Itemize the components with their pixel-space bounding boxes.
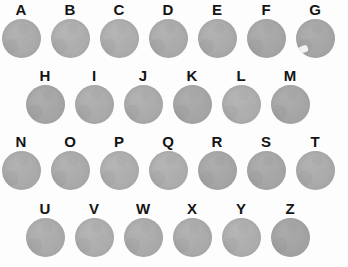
specimen-disc-u — [26, 218, 65, 257]
specimen-row-4: UVWXYZ — [25, 201, 319, 261]
specimen-label-j: J — [139, 68, 147, 85]
specimen-disc-r — [198, 151, 237, 190]
specimen-label-a: A — [16, 2, 27, 19]
specimen-n: N — [1, 134, 41, 194]
specimen-disc-o — [51, 151, 90, 190]
specimen-b: B — [50, 2, 90, 62]
specimen-disc-x — [173, 218, 212, 257]
specimen-label-b: B — [65, 2, 76, 19]
specimen-label-g: G — [309, 2, 321, 19]
specimen-a: A — [1, 2, 41, 62]
specimen-disc-t — [296, 151, 335, 190]
specimen-label-n: N — [16, 134, 27, 151]
specimen-disc-q — [149, 151, 188, 190]
specimen-j: J — [123, 68, 163, 128]
specimen-label-c: C — [114, 2, 125, 19]
specimen-disc-l — [222, 85, 261, 124]
specimen-o: O — [50, 134, 90, 194]
specimen-disc-e — [198, 19, 237, 58]
specimen-label-z: Z — [285, 201, 294, 218]
specimen-disc-d — [149, 19, 188, 58]
specimen-g: G — [295, 2, 335, 62]
specimen-disc-k — [173, 85, 212, 124]
specimen-m: M — [270, 68, 310, 128]
specimen-x: X — [172, 201, 212, 261]
specimen-label-h: H — [40, 68, 51, 85]
specimen-label-u: U — [40, 201, 51, 218]
specimen-label-r: R — [212, 134, 223, 151]
specimen-label-m: M — [284, 68, 297, 85]
specimen-q: Q — [148, 134, 188, 194]
specimen-label-x: X — [187, 201, 197, 218]
specimen-k: K — [172, 68, 212, 128]
specimen-disc-y — [222, 218, 261, 257]
specimen-disc-s — [247, 151, 286, 190]
specimen-label-k: K — [187, 68, 198, 85]
specimen-disc-m — [271, 85, 310, 124]
specimen-label-t: T — [310, 134, 319, 151]
specimen-disc-f — [247, 19, 286, 58]
specimen-z: Z — [270, 201, 310, 261]
specimen-u: U — [25, 201, 65, 261]
specimen-row-1: ABCDEFG — [1, 2, 344, 62]
specimen-disc-g — [296, 19, 335, 58]
specimen-d: D — [148, 2, 188, 62]
specimen-e: E — [197, 2, 237, 62]
specimen-h: H — [25, 68, 65, 128]
specimen-disc-c — [100, 19, 139, 58]
specimen-disc-j — [124, 85, 163, 124]
specimen-c: C — [99, 2, 139, 62]
specimen-t: T — [295, 134, 335, 194]
specimen-label-i: I — [92, 68, 96, 85]
specimen-disc-h — [26, 85, 65, 124]
specimen-disc-v — [75, 218, 114, 257]
specimen-disc-i — [75, 85, 114, 124]
specimen-disc-p — [100, 151, 139, 190]
specimen-r: R — [197, 134, 237, 194]
specimen-label-p: P — [114, 134, 124, 151]
specimen-f: F — [246, 2, 286, 62]
specimen-label-e: E — [212, 2, 222, 19]
specimen-y: Y — [221, 201, 261, 261]
specimen-label-w: W — [136, 201, 150, 218]
specimen-disc-a — [2, 19, 41, 58]
specimen-label-l: L — [236, 68, 245, 85]
specimen-w: W — [123, 201, 163, 261]
specimen-row-3: NOPQRST — [1, 134, 344, 194]
specimen-disc-w — [124, 218, 163, 257]
specimen-label-f: F — [261, 2, 270, 19]
specimen-plate-figure: ABCDEFGHIJKLMNOPQRSTUVWXYZ — [0, 0, 348, 267]
specimen-p: P — [99, 134, 139, 194]
specimen-v: V — [74, 201, 114, 261]
specimen-label-y: Y — [236, 201, 246, 218]
specimen-i: I — [74, 68, 114, 128]
specimen-l: L — [221, 68, 261, 128]
specimen-label-q: Q — [162, 134, 174, 151]
specimen-disc-z — [271, 218, 310, 257]
specimen-row-2: HIJKLM — [25, 68, 319, 128]
specimen-disc-n — [2, 151, 41, 190]
specimen-label-o: O — [64, 134, 76, 151]
specimen-disc-b — [51, 19, 90, 58]
specimen-label-d: D — [163, 2, 174, 19]
specimen-label-s: S — [261, 134, 271, 151]
specimen-label-v: V — [89, 201, 99, 218]
specimen-s: S — [246, 134, 286, 194]
